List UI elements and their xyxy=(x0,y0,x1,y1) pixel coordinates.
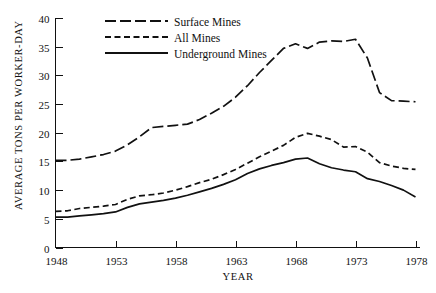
y-tick-label: 20 xyxy=(39,128,51,140)
y-tick-label: 35 xyxy=(39,42,51,54)
x-tick-label: 1958 xyxy=(166,255,189,267)
x-tick-label: 1953 xyxy=(106,255,129,267)
y-tick-label: 15 xyxy=(39,156,51,168)
y-axis-tick-labels: 0510152025303540 xyxy=(39,13,51,255)
series-line-underground-mines xyxy=(56,158,416,217)
x-tick-label: 1978 xyxy=(406,255,429,267)
x-tick-label: 1968 xyxy=(286,255,309,267)
chart-figure: 0510152025303540 19481953195819631968197… xyxy=(0,0,436,293)
x-axis-ticks xyxy=(117,241,417,248)
y-tick-label: 0 xyxy=(44,243,50,255)
y-tick-label: 10 xyxy=(39,185,51,197)
x-tick-label: 1963 xyxy=(226,255,249,267)
y-axis-title: AVERAGE TONS PER WORKER-DAY xyxy=(13,20,24,210)
x-tick-label: 1973 xyxy=(346,255,369,267)
legend-label: Underground Mines xyxy=(174,48,267,61)
y-tick-label: 40 xyxy=(39,13,51,25)
legend-label: Surface Mines xyxy=(174,16,241,28)
y-tick-label: 30 xyxy=(39,70,51,82)
chart-legend: Surface MinesAll MinesUnderground Mines xyxy=(105,16,267,61)
x-axis-tick-labels: 1948195319581963196819731978 xyxy=(46,255,429,267)
y-tick-label: 25 xyxy=(39,99,51,111)
series-line-all-mines xyxy=(56,133,416,211)
y-axis-ticks xyxy=(56,19,63,249)
y-tick-label: 5 xyxy=(44,214,50,226)
legend-label: All Mines xyxy=(174,32,221,44)
x-tick-label: 1948 xyxy=(46,255,69,267)
data-series-group xyxy=(56,39,416,217)
line-chart: 0510152025303540 19481953195819631968197… xyxy=(0,0,436,293)
x-axis-title: YEAR xyxy=(223,271,254,282)
